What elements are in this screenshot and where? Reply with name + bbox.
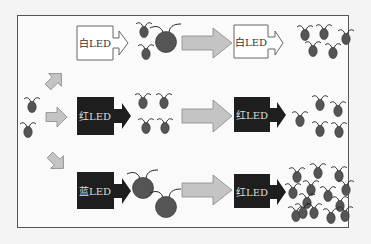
blue-led-box-stage1: 蓝LED — [77, 172, 131, 209]
led-label: 红LED — [236, 109, 268, 121]
white-led-box-stage2: 白LED — [234, 25, 283, 58]
led-label: 红LED — [79, 110, 111, 122]
branch-arrow-down-icon — [44, 149, 70, 175]
branch-arrow-right-icon — [46, 107, 67, 127]
diagram-canvas: 白LED 白LED 红LED 红LED — [0, 0, 371, 244]
led-label: 蓝LED — [79, 186, 111, 197]
grey-arrow-row2-icon — [182, 100, 232, 132]
row2-stage2-cells — [292, 96, 347, 138]
row3-stage1-cells — [127, 170, 181, 218]
led-label: 白LED — [235, 36, 267, 48]
grey-arrow-row3-icon — [182, 175, 232, 205]
start-algae-cells — [20, 98, 40, 138]
branch-arrow-up-icon — [42, 67, 68, 93]
red-led-box-stage2: 红LED — [234, 97, 286, 132]
row1-stage2-cells — [297, 25, 354, 59]
red-led-box-stage2-row3: 红LED — [234, 174, 286, 208]
white-led-box-stage1: 白LED — [77, 26, 128, 60]
row1-stage1-cells — [136, 23, 181, 60]
row3-stage2-cells — [285, 164, 354, 224]
grey-arrow-row1-icon — [182, 28, 232, 58]
led-label: 红LED — [236, 186, 268, 198]
red-led-box-stage1: 红LED — [77, 97, 131, 135]
row2-stage1-cells — [135, 94, 173, 134]
led-label: 白LED — [79, 37, 111, 49]
